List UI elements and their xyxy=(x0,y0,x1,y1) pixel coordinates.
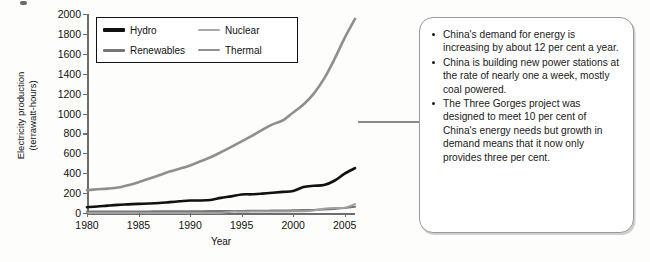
y-tick-label: 1000 xyxy=(58,108,81,120)
legend-item-renewables: Renewables xyxy=(103,45,198,56)
y-tick-label: 1600 xyxy=(58,48,81,60)
y-tick xyxy=(83,34,87,35)
y-tick xyxy=(83,94,87,95)
y-tick-label: 2000 xyxy=(58,8,81,20)
legend-item-hydro: Hydro xyxy=(103,25,198,36)
x-tick xyxy=(190,213,191,217)
y-tick-label: 400 xyxy=(63,167,81,179)
legend-swatch-hydro xyxy=(103,28,125,32)
legend-label-thermal: Thermal xyxy=(225,45,262,56)
y-tick-label: 0 xyxy=(75,207,81,219)
x-tick-label: 2005 xyxy=(333,219,356,231)
callout-bullet: China is building new power stations at … xyxy=(430,56,621,96)
y-tick xyxy=(83,14,87,15)
x-tick xyxy=(345,213,346,217)
y-tick xyxy=(83,153,87,154)
y-tick-label: 1400 xyxy=(58,68,81,80)
figure-root: Electricity production (terrawatt-hours)… xyxy=(0,0,650,262)
legend-item-thermal: Thermal xyxy=(198,45,293,56)
callout-bullet: The Three Gorges project was designed to… xyxy=(430,97,621,164)
legend-swatch-renewables xyxy=(103,49,125,52)
x-tick xyxy=(293,213,294,217)
y-tick xyxy=(83,54,87,55)
legend-swatch-nuclear xyxy=(198,29,220,32)
x-tick-label: 1990 xyxy=(178,219,201,231)
callout-bullet-list: China's demand for energy is increasing … xyxy=(430,28,621,164)
legend-swatch-thermal xyxy=(198,49,220,52)
series-line-hydro xyxy=(87,168,355,207)
legend-label-nuclear: Nuclear xyxy=(225,25,259,36)
legend-label-renewables: Renewables xyxy=(130,45,185,56)
legend-item-nuclear: Nuclear xyxy=(198,25,293,36)
y-tick xyxy=(83,193,87,194)
callout-bullet: China's demand for energy is increasing … xyxy=(430,28,621,55)
x-tick-label: 1985 xyxy=(127,219,150,231)
y-axis-title: Electricity production (terrawatt-hours) xyxy=(15,26,38,206)
y-tick-label: 800 xyxy=(63,127,81,139)
x-tick xyxy=(87,213,88,217)
callout-box: China's demand for energy is increasing … xyxy=(419,17,634,233)
y-tick-label: 1200 xyxy=(58,88,81,100)
x-tick-label: 2000 xyxy=(281,219,304,231)
y-tick-label: 1800 xyxy=(58,28,81,40)
legend-label-hydro: Hydro xyxy=(130,25,157,36)
x-tick-label: 1995 xyxy=(230,219,253,231)
y-tick xyxy=(83,74,87,75)
x-tick xyxy=(139,213,140,217)
y-tick xyxy=(83,114,87,115)
x-axis-title: Year xyxy=(87,236,355,247)
callout-connector-line xyxy=(358,121,422,123)
chart-legend: Hydro Nuclear Renewables Thermal xyxy=(96,17,298,63)
x-tick-label: 1980 xyxy=(75,219,98,231)
y-tick-label: 200 xyxy=(63,187,81,199)
y-tick xyxy=(83,133,87,134)
line-chart: Electricity production (terrawatt-hours)… xyxy=(0,0,400,262)
x-tick xyxy=(242,213,243,217)
y-tick-label: 600 xyxy=(63,147,81,159)
y-tick xyxy=(83,173,87,174)
